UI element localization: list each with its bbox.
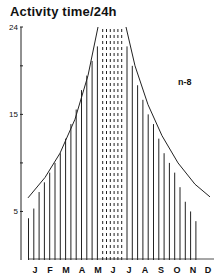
month-label: J — [126, 265, 131, 275]
month-label: S — [158, 265, 164, 275]
sample-size-annotation: n-8 — [178, 77, 192, 87]
month-label: J — [110, 265, 115, 275]
month-label: J — [32, 265, 37, 275]
month-label: N — [190, 265, 197, 275]
y-tick-label: 15 — [9, 110, 18, 119]
month-label: O — [173, 265, 180, 275]
month-label: A — [79, 265, 86, 275]
dotted-region — [103, 27, 122, 260]
left-envelope — [28, 27, 98, 198]
y-tick-label: 24 — [9, 23, 18, 32]
month-label: F — [47, 265, 53, 275]
bars — [29, 46, 196, 260]
month-label: M — [94, 265, 102, 275]
activity-chart: 51524JFMAMJJASONDn-8 — [0, 0, 222, 278]
month-label: M — [62, 265, 70, 275]
month-label: D — [205, 265, 212, 275]
right-envelope — [126, 27, 210, 197]
month-label: A — [142, 265, 149, 275]
y-tick-label: 5 — [14, 207, 19, 216]
